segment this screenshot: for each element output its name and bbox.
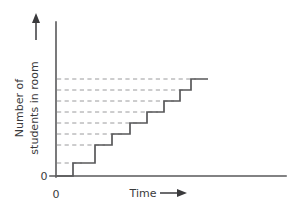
y-axis-zero-label: 0 [41, 170, 48, 183]
y-axis-title-line2: students in room [28, 61, 41, 154]
x-axis-title: Time [129, 187, 157, 200]
chart-canvas: 0 0 Time Number of students in room [0, 0, 299, 209]
y-axis-direction-arrow [32, 13, 40, 40]
y-axis-title-line1: Number of [13, 78, 26, 137]
step-function-series [57, 79, 208, 176]
x-axis-zero-label: 0 [53, 188, 60, 201]
step-chart-figure: 0 0 Time Number of students in room [0, 0, 299, 209]
x-axis-direction-arrow [160, 189, 187, 197]
gridlines-group [57, 79, 196, 163]
